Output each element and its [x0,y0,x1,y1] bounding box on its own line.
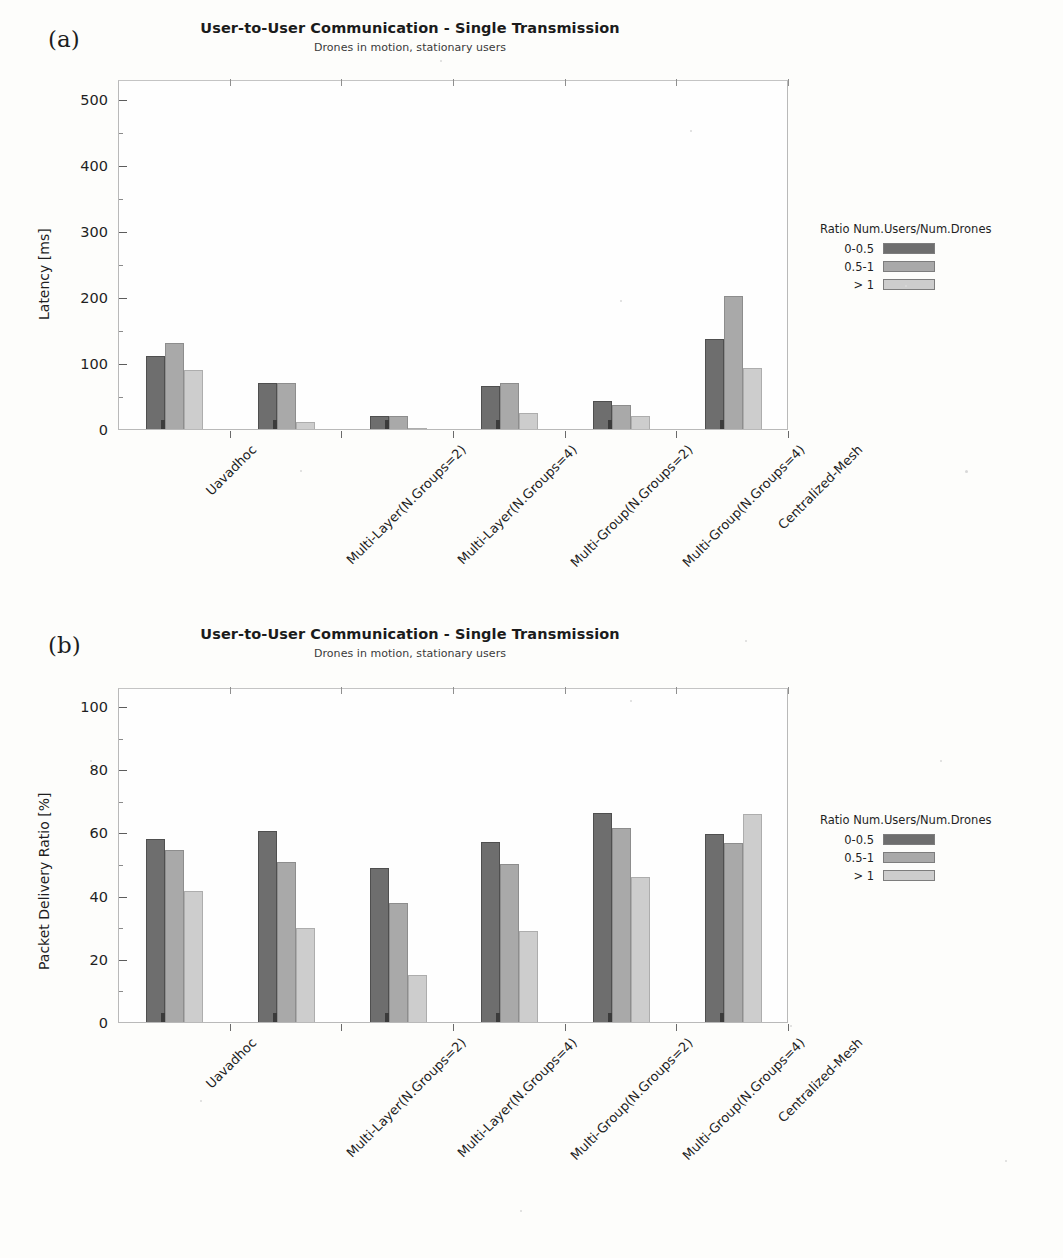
x-tick-mark-top [565,79,566,86]
panel-b: (b) User-to-User Communication - Single … [0,600,1063,1258]
x-tick-mark [676,431,677,438]
y-tick-minor [119,928,123,929]
legend-label-0: 0-0.5 [820,242,883,256]
x-tick-mark-top [341,687,342,694]
x-tick-mark [341,431,342,438]
x-axis-category-label: Multi-Layer(N.Groups=4) [455,1035,580,1160]
y-tick-mark [119,364,127,365]
panel-a-plot-area [118,80,788,430]
bar [146,356,165,429]
legend-row: 0-0.5 [820,242,991,255]
panel-a-y-axis-label: Latency [ms] [36,228,52,320]
y-tick-minor [119,199,123,200]
x-tick-mark-top [788,687,789,694]
bar [612,405,631,429]
y-tick-mark [119,960,127,961]
scan-artifact [385,420,389,429]
panel-a-subtitle: Drones in motion, stationary users [130,41,690,54]
x-tick-mark-top [230,687,231,694]
bar [705,834,724,1022]
bar [408,428,427,429]
y-tick-label: 500 [56,92,108,108]
bar [146,839,165,1022]
bar [631,877,650,1022]
bar [481,842,500,1022]
legend-swatch-1 [883,261,935,272]
x-tick-mark [453,431,454,438]
bar [389,416,408,429]
legend-label-2: > 1 [820,869,883,883]
bar [631,416,650,429]
x-tick-mark [565,431,566,438]
y-tick-label: 100 [56,356,108,372]
legend-row: > 1 [820,869,991,882]
y-tick-minor [119,991,123,992]
x-tick-mark [676,1024,677,1031]
y-tick-label: 20 [56,952,108,968]
bar [296,422,315,429]
y-tick-label: 40 [56,889,108,905]
bar [743,368,762,429]
legend-row: > 1 [820,278,991,291]
bar [408,975,427,1022]
x-axis-category-label: Multi-Group(N.Groups=2) [567,1035,695,1163]
y-tick-label: 200 [56,290,108,306]
legend-swatch-1 [883,852,935,863]
x-tick-mark [341,1024,342,1031]
scan-artifact [385,1013,389,1022]
y-tick-minor [119,265,123,266]
panel-b-letter: (b) [48,632,81,658]
bar [165,343,184,429]
scan-artifact [720,420,724,429]
bar [519,413,538,430]
y-tick-mark [119,298,127,299]
x-tick-mark-top [676,79,677,86]
x-tick-mark-top [565,687,566,694]
figure-page: (a) User-to-User Communication - Single … [0,0,1063,1258]
y-tick-label: 0 [56,1015,108,1031]
bar [724,296,743,429]
x-tick-mark-top [676,687,677,694]
legend-title: Ratio Num.Users/Num.Drones [820,813,991,827]
bar [612,828,631,1022]
panel-b-plot-area [118,688,788,1023]
panel-b-subtitle: Drones in motion, stationary users [130,647,690,660]
panel-b-y-axis-label: Packet Delivery Ratio [%] [36,793,52,970]
x-tick-mark-top [788,79,789,86]
legend-row: 0.5-1 [820,260,991,273]
y-tick-mark [119,100,127,101]
y-tick-minor [119,802,123,803]
scan-artifact [608,1013,612,1022]
bar [370,868,389,1022]
x-axis-category-label: Multi-Group(N.Groups=2) [567,442,695,570]
x-axis-category-label: Multi-Group(N.Groups=4) [679,1035,807,1163]
bar [277,862,296,1022]
x-axis-category-label: Uavadhoc [203,442,259,498]
bar [296,928,315,1022]
x-axis-category-label: Multi-Layer(N.Groups=2) [343,442,468,567]
y-tick-minor [119,133,123,134]
x-axis-category-label: Multi-Layer(N.Groups=4) [455,442,580,567]
scan-artifact [273,420,277,429]
legend-title: Ratio Num.Users/Num.Drones [820,222,991,236]
x-tick-mark [788,431,789,438]
legend-row: 0.5-1 [820,851,991,864]
panel-b-legend: Ratio Num.Users/Num.Drones 0-0.5 0.5-1 >… [820,813,991,887]
x-axis-category-label: Uavadhoc [203,1035,259,1091]
bar [389,903,408,1022]
y-tick-mark [119,770,127,771]
y-tick-label: 0 [56,422,108,438]
scan-artifact [273,1013,277,1022]
legend-swatch-2 [883,870,935,881]
legend-swatch-0 [883,834,935,845]
legend-label-1: 0.5-1 [820,851,883,865]
scan-artifact [720,1013,724,1022]
y-tick-label: 400 [56,158,108,174]
x-tick-mark [788,1024,789,1031]
bar [724,843,743,1022]
x-tick-mark-top [341,79,342,86]
x-tick-mark [230,431,231,438]
x-tick-mark [230,1024,231,1031]
y-tick-label: 300 [56,224,108,240]
x-tick-mark [565,1024,566,1031]
